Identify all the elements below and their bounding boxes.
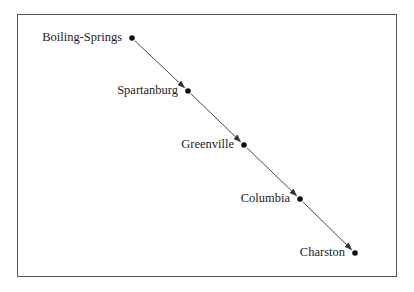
node-dot-charston	[352, 250, 358, 256]
node-label-spartanburg: Spartanburg	[117, 83, 178, 98]
edge-spartanburg-to-greenville	[191, 94, 241, 142]
node-dot-columbia	[297, 196, 303, 202]
node-label-greenville: Greenville	[181, 137, 234, 152]
node-dot-boiling-springs	[129, 35, 135, 41]
node-dot-greenville	[241, 142, 247, 148]
node-label-boiling-springs: Boiling-Springs	[42, 30, 122, 45]
edge-boiling-springs-to-spartanburg	[135, 41, 184, 88]
edge-columbia-to-charston	[303, 202, 352, 250]
node-dot-spartanburg	[185, 88, 191, 94]
edge-greenville-to-columbia	[247, 148, 297, 196]
node-label-charston: Charston	[300, 245, 345, 260]
node-label-columbia: Columbia	[241, 191, 290, 206]
